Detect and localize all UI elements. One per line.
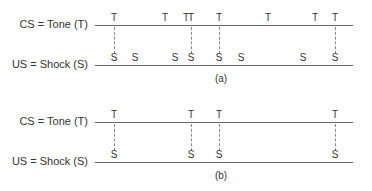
shock-marker: S [111,53,118,63]
tone-marker: T [216,110,222,120]
us-label-a: US = Shock (S) [0,58,88,70]
tone-marker: T [332,110,338,120]
pairing-dash-line [191,27,192,54]
shock-marker: S [332,53,339,63]
us-timeline-b [95,162,353,163]
pairing-dash-line [219,124,220,151]
cs-timeline-a [95,25,353,26]
pairing-dash-line [335,124,336,151]
shock-marker: S [188,150,195,160]
panel-a: CS = Tone (T) US = Shock (S) TTTTTTTTSSS… [0,0,372,95]
cs-label-b: CS = Tone (T) [0,115,88,127]
pairing-dash-line [114,27,115,54]
tone-marker: T [188,110,194,120]
caption-b: (b) [215,170,227,181]
tone-marker: T [332,13,338,23]
tone-marker: T [265,13,271,23]
shock-marker: S [132,53,139,63]
tone-marker: T [216,13,222,23]
us-timeline-a [95,65,353,66]
tone-marker: T [312,13,318,23]
shock-marker: S [216,53,223,63]
shock-marker: S [216,150,223,160]
us-label-b: US = Shock (S) [0,155,88,167]
pairing-dash-line [114,124,115,151]
pairing-dash-line [335,27,336,54]
caption-a: (a) [215,73,227,84]
pairing-dash-line [191,124,192,151]
tone-marker: T [111,110,117,120]
shock-marker: S [172,53,179,63]
tone-marker: T [162,13,168,23]
tone-marker: T [111,13,117,23]
shock-marker: S [300,53,307,63]
cs-label-a: CS = Tone (T) [0,18,88,30]
shock-marker: S [188,53,195,63]
panel-b: CS = Tone (T) US = Shock (S) TTTTSSSS (b… [0,97,372,191]
shock-marker: S [332,150,339,160]
shock-marker: S [111,150,118,160]
tone-marker: T [188,13,194,23]
pairing-dash-line [219,27,220,54]
shock-marker: S [238,53,245,63]
cs-timeline-b [95,122,353,123]
